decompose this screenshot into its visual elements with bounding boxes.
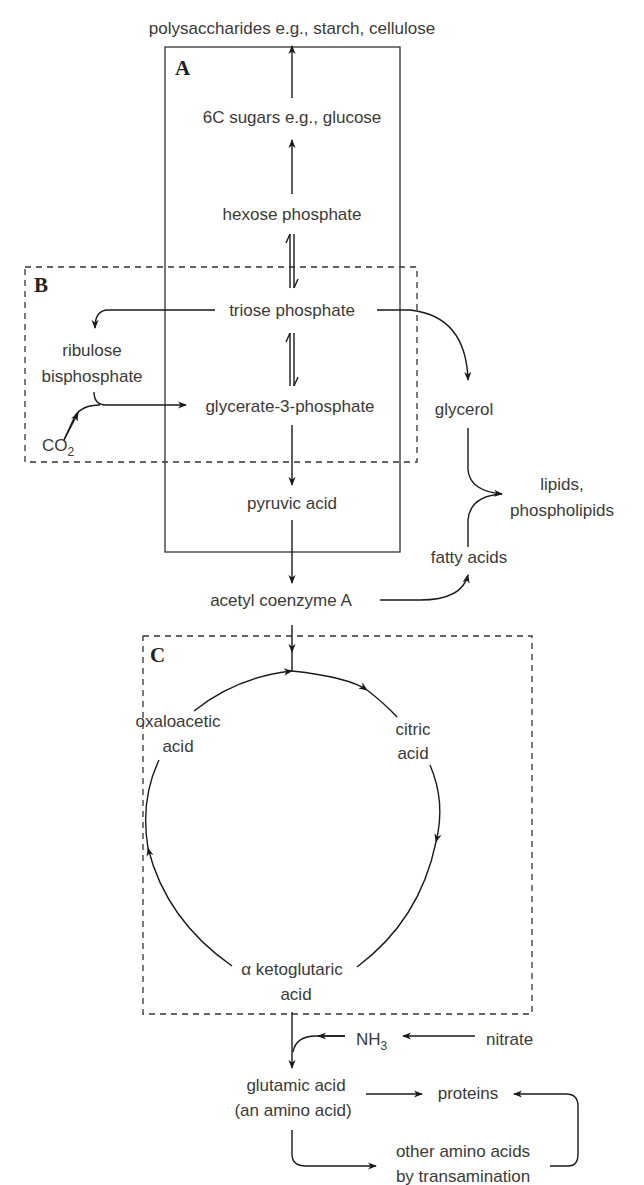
arrow-top-to-citric-a xyxy=(292,671,367,690)
box-b xyxy=(25,267,417,462)
node-fatty-acids: fatty acids xyxy=(431,548,508,567)
equilibrium-arrow-triose-glycerate xyxy=(286,333,298,386)
arrow-acetyl-coa-to-fatty-acids xyxy=(380,575,468,600)
arrow-glycerol-to-lipids xyxy=(468,428,502,494)
arrow-citric-to-right xyxy=(430,765,440,842)
node-ribulose-line2: bisphosphate xyxy=(41,367,142,386)
box-c xyxy=(143,636,532,1014)
equilibrium-arrow-hexose-triose xyxy=(286,234,298,288)
node-glycerol: glycerol xyxy=(435,400,494,419)
arrow-triose-to-glycerol xyxy=(377,310,468,380)
node-pyruvic-acid: pyruvic acid xyxy=(247,494,337,513)
node-other-amino-acids-line2: by transamination xyxy=(396,1167,530,1185)
node-ribulose-line1: ribulose xyxy=(62,341,122,360)
arrow-ribulose-to-glycerate xyxy=(94,392,186,405)
arrow-top-to-citric-b xyxy=(367,690,397,717)
node-glutamic-line1: glutamic acid xyxy=(246,1076,345,1095)
node-citric-line2: acid xyxy=(397,744,428,763)
node-polysaccharides: polysaccharides e.g., starch, cellulose xyxy=(149,19,435,38)
arrow-glutamic-to-other-amino-acids xyxy=(292,1130,376,1166)
node-oxaloacetic-line2: acid xyxy=(162,737,193,756)
arrow-co2-to-glycerate xyxy=(64,413,78,440)
node-nitrate: nitrate xyxy=(486,1030,533,1049)
node-other-amino-acids-line1: other amino acids xyxy=(396,1142,530,1161)
arrow-fatty-acids-to-lipids xyxy=(468,494,502,547)
node-ketoglutaric-line1: α ketoglutaric xyxy=(241,960,343,979)
arrow-triose-to-ribulose xyxy=(95,310,215,328)
box-c-label: C xyxy=(150,643,165,667)
node-glutamic-line2: (an amino acid) xyxy=(234,1101,351,1120)
node-oxaloacetic-line1: oxaloacetic xyxy=(135,712,221,731)
node-nh3: NH3 xyxy=(356,1030,388,1053)
arrow-oxaloacetic-to-top xyxy=(194,671,292,711)
box-b-label: B xyxy=(34,273,48,297)
node-lipids-line1: lipids, xyxy=(540,475,583,494)
node-hexose-phosphate: hexose phosphate xyxy=(223,205,362,224)
metabolic-pathway-diagram: A B C polysaccharides e.g., starch, cell… xyxy=(0,0,644,1185)
node-glycerate-3-phosphate: glycerate-3-phosphate xyxy=(205,397,374,416)
arrow-co2-curve xyxy=(64,405,100,440)
node-citric-line1: citric xyxy=(396,720,431,739)
node-ketoglutaric-line2: acid xyxy=(280,985,311,1004)
node-triose-phosphate: triose phosphate xyxy=(229,301,355,320)
arrow-ketoglutaric-to-left xyxy=(148,848,232,966)
node-co2: CO2 xyxy=(42,436,75,459)
node-proteins: proteins xyxy=(438,1084,498,1103)
arc-left-to-oxaloacetic xyxy=(146,760,159,848)
arc-right-to-ketoglutaric xyxy=(357,842,436,967)
box-a-label: A xyxy=(175,56,191,80)
node-lipids-line2: phospholipids xyxy=(510,501,614,520)
arrow-nh3-join-curve xyxy=(293,1036,345,1052)
node-acetyl-coa: acetyl coenzyme A xyxy=(210,591,352,610)
node-6c-sugars: 6C sugars e.g., glucose xyxy=(203,108,382,127)
